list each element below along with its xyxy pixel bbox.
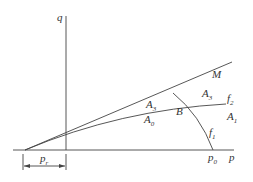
- line-f2: [25, 104, 226, 150]
- p-axis-label: p: [228, 151, 235, 163]
- diagram-canvas: q p M f2 f1 A3 A3 A0 A1 B p0 pr: [0, 0, 253, 182]
- q-axis-label: q: [57, 11, 63, 23]
- curve-f1: [173, 93, 213, 150]
- arrow-left-icon: [24, 164, 30, 168]
- f2-label: f2: [227, 92, 234, 107]
- a3-right-label: A3: [201, 87, 213, 102]
- p0-label: p0: [207, 151, 218, 166]
- a0-label: A0: [143, 113, 155, 128]
- f1-label: f1: [209, 126, 216, 141]
- point-b-label: B: [176, 105, 183, 117]
- m-label: M: [211, 68, 222, 80]
- a1-label: A1: [226, 110, 237, 125]
- pr-dimension-label: pr: [39, 152, 49, 167]
- a3-upper-label: A3: [145, 98, 157, 113]
- arrow-right-icon: [59, 164, 65, 168]
